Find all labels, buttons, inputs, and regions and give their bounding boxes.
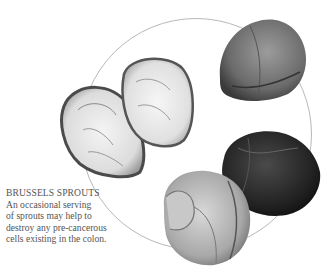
- caption-line: of sprouts may help to: [6, 210, 166, 222]
- caption-line: cells existing in the colon.: [6, 233, 166, 245]
- caption-line: An occasional serving: [6, 199, 166, 211]
- halved-sprout-right-image: [118, 54, 198, 149]
- caption-line: destroy any pre-cancerous: [6, 222, 166, 234]
- whole-sprout-light-image: [158, 167, 254, 267]
- caption-title: BRUSSELS SPROUTS: [6, 187, 166, 199]
- caption: BRUSSELS SPROUTS An occasional serving o…: [6, 187, 166, 245]
- whole-sprout-top-right-image: [210, 16, 310, 104]
